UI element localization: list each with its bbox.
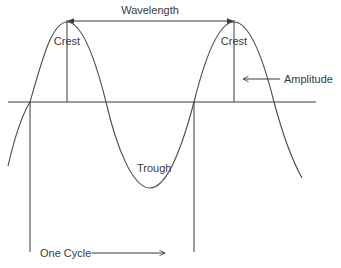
crest-right-label: Crest [221,35,247,47]
wavelength-label: Wavelength [121,4,179,16]
trough-label: Trough [137,162,171,174]
crest-left-label: Crest [54,35,80,47]
amplitude-label: Amplitude [284,73,333,85]
wave-diagram: Wavelength Crest Crest Amplitude Trough … [0,0,341,268]
one-cycle-label: One Cycle [40,247,91,259]
